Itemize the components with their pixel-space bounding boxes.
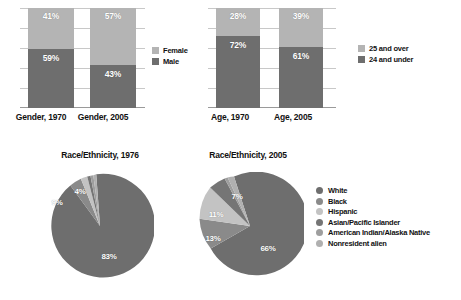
bar-segment-24-and-under[interactable]: 61% xyxy=(279,47,323,108)
legend-item-female[interactable]: Female xyxy=(152,46,188,55)
gender-legend: Female Male xyxy=(152,46,188,68)
pie-value-label-asian-pacific-islander: 7% xyxy=(232,192,243,201)
bar-age-1970[interactable]: 28% 72% xyxy=(216,8,260,108)
pie-2005-svg xyxy=(196,172,304,280)
pie-value-label-black: 13% xyxy=(205,234,220,243)
pie-value-label-white: 83% xyxy=(101,252,116,261)
legend-item-24-and-under[interactable]: 24 and under xyxy=(358,55,413,64)
legend-label: White xyxy=(328,186,347,195)
legend-dot-asian-pacific-islander xyxy=(316,219,323,226)
legend-item-asian-pacific-islander[interactable]: Asian/Pacific Islander xyxy=(316,218,430,227)
pie-value-label-black: 9% xyxy=(52,198,63,207)
clipped-caption-strip xyxy=(0,294,461,300)
pie-chart-2005: 66% 13% 11% 7% xyxy=(196,172,304,280)
bar-value-label: 43% xyxy=(105,69,121,79)
legend-label: 25 and over xyxy=(369,44,409,53)
bar-value-label: 72% xyxy=(230,40,246,50)
bar-gender-2005[interactable]: 57% 43% xyxy=(90,8,136,108)
legend-label: American Indian/Alaska Native xyxy=(328,228,430,237)
race-ethnicity-legend: White Black Hispanic Asian/Pacific Islan… xyxy=(316,186,430,249)
category-label-age-2005: Age, 2005 xyxy=(248,112,338,122)
legend-dot-hispanic xyxy=(316,208,323,215)
bar-value-label: 57% xyxy=(105,11,121,21)
age-bar-chart: 28% 72% 39% 61% xyxy=(208,8,336,108)
bar-value-label: 39% xyxy=(293,11,309,21)
legend-swatch-male xyxy=(152,58,159,65)
legend-label: 24 and under xyxy=(369,55,413,64)
legend-dot-black xyxy=(316,198,323,205)
legend-dot-nonresident-alien xyxy=(316,240,323,247)
legend-dot-white xyxy=(316,187,323,194)
bar-segment-25-and-over[interactable]: 39% xyxy=(279,8,323,47)
legend-swatch-24-and-under xyxy=(358,56,365,63)
gender-bar-chart: 41% 59% 57% 43% xyxy=(20,8,145,108)
legend-label: Hispanic xyxy=(328,207,357,216)
pie-title-1976: Race/Ethnicity, 1976 xyxy=(20,150,180,160)
legend-swatch-25-and-over xyxy=(358,45,365,52)
legend-label: Nonresident alien xyxy=(328,239,387,248)
bar-segment-25-and-over[interactable]: 28% xyxy=(216,8,260,36)
bar-value-label: 28% xyxy=(230,11,246,21)
legend-label: Male xyxy=(163,57,179,66)
bar-value-label: 61% xyxy=(293,51,309,61)
legend-item-25-and-over[interactable]: 25 and over xyxy=(358,44,413,53)
pie-1976-svg xyxy=(46,172,154,280)
category-label-gender-2005: Gender, 2005 xyxy=(58,112,148,122)
clipped-caption-text xyxy=(0,294,461,296)
legend-dot-american-indian-alaska-native xyxy=(316,229,323,236)
figure-container: 41% 59% 57% 43% Gender, 1970 Gender, 200… xyxy=(0,0,461,300)
legend-item-nonresident-alien[interactable]: Nonresident alien xyxy=(316,239,430,248)
legend-swatch-female xyxy=(152,47,159,54)
legend-item-american-indian-alaska-native[interactable]: American Indian/Alaska Native xyxy=(316,228,430,237)
legend-item-white[interactable]: White xyxy=(316,186,430,195)
pie-slice-white[interactable] xyxy=(51,174,154,278)
legend-item-black[interactable]: Black xyxy=(316,197,430,206)
legend-label: Black xyxy=(328,197,347,206)
bar-value-label: 59% xyxy=(43,53,59,63)
bar-segment-male[interactable]: 43% xyxy=(90,65,136,108)
bar-segment-male[interactable]: 59% xyxy=(28,49,74,108)
pie-value-label-hispanic: 4% xyxy=(75,187,86,196)
bar-value-label: 41% xyxy=(43,11,59,21)
bar-segment-24-and-under[interactable]: 72% xyxy=(216,36,260,108)
bar-gender-1970[interactable]: 41% 59% xyxy=(28,8,74,108)
legend-item-male[interactable]: Male xyxy=(152,57,188,66)
bar-age-2005[interactable]: 39% 61% xyxy=(279,8,323,108)
bar-segment-female[interactable]: 41% xyxy=(28,8,74,49)
pie-value-label-hispanic: 11% xyxy=(209,210,224,219)
bar-segment-female[interactable]: 57% xyxy=(90,8,136,65)
legend-label: Female xyxy=(163,46,188,55)
age-legend: 25 and over 24 and under xyxy=(358,44,413,66)
legend-item-hispanic[interactable]: Hispanic xyxy=(316,207,430,216)
pie-value-label-white: 66% xyxy=(260,244,275,253)
legend-label: Asian/Pacific Islander xyxy=(328,218,400,227)
pie-title-2005: Race/Ethnicity, 2005 xyxy=(168,150,328,160)
pie-chart-1976: 83% 9% 4% xyxy=(46,172,154,280)
